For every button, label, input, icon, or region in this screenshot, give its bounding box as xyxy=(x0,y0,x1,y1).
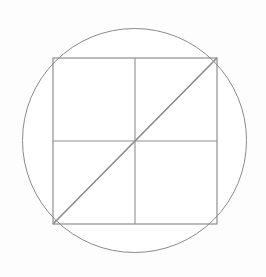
geometric-figure xyxy=(0,0,266,277)
diagram-canvas xyxy=(0,0,266,277)
